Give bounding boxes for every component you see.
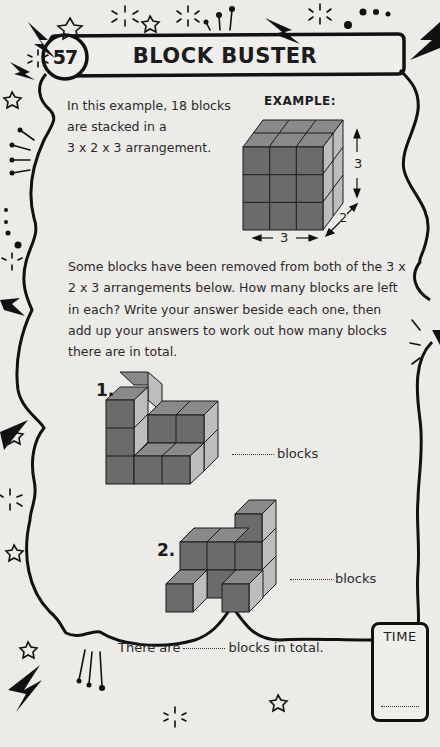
- total-suffix: blocks in total.: [228, 640, 323, 655]
- intro-text: In this example, 18 blocks are stacked i…: [67, 95, 237, 158]
- instructions-text: Some blocks have been removed from both …: [68, 256, 408, 362]
- question-1-answer-blank[interactable]: [232, 454, 274, 455]
- arrangement-1: [106, 372, 218, 484]
- question-2-suffix: blocks: [335, 571, 376, 586]
- question-2-answer: blocks: [290, 571, 376, 586]
- total-answer-blank[interactable]: [183, 648, 225, 649]
- example-cube: [243, 120, 343, 230]
- question-2-answer-blank[interactable]: [290, 579, 332, 580]
- puzzle-page: 3 3 2: [0, 0, 440, 747]
- timer-label: TIME: [374, 629, 426, 644]
- question-1-number: 1.: [96, 380, 114, 400]
- total-prefix: There are: [118, 640, 180, 655]
- intro-line-2: are stacked in a: [67, 116, 237, 137]
- question-1-suffix: blocks: [277, 446, 318, 461]
- dim-depth: 2: [339, 210, 347, 225]
- dim-width: 3: [280, 230, 288, 245]
- intro-line-1: In this example, 18 blocks: [67, 95, 237, 116]
- total-sentence: There are blocks in total.: [118, 640, 324, 655]
- dim-height: 3: [354, 156, 362, 171]
- intro-line-3: 3 x 2 x 3 arrangement.: [67, 137, 237, 158]
- timer-box: TIME: [371, 622, 429, 722]
- arrangement-2: [166, 500, 276, 612]
- example-label: EXAMPLE:: [264, 94, 336, 108]
- puzzle-number: 57: [45, 37, 85, 77]
- question-1-answer: blocks: [232, 446, 318, 461]
- page-title: BLOCK BUSTER: [90, 36, 360, 76]
- timer-answer-blank[interactable]: [381, 706, 419, 707]
- question-2-number: 2.: [157, 540, 175, 560]
